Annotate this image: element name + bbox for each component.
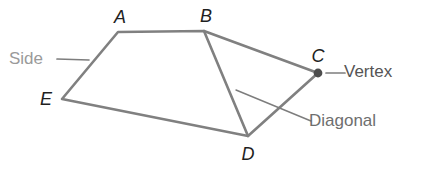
side-callout-label: Side <box>9 50 43 67</box>
vertex-dot-marker <box>314 69 323 78</box>
vertex-label-a: A <box>114 8 126 26</box>
vertex-callout-label: Vertex <box>344 63 392 80</box>
diagonal-bd-path <box>204 31 248 136</box>
diagonal-leader-line <box>236 90 311 121</box>
vertex-label-d: D <box>242 145 255 163</box>
side-leader-line <box>57 59 89 60</box>
vertex-label-b: B <box>200 7 212 25</box>
vertex-label-c: C <box>312 47 325 65</box>
geometry-diagram: A B C D E Side Vertex Diagonal <box>0 0 421 171</box>
pentagon-outline-path <box>62 31 318 136</box>
diagonal-callout-label: Diagonal <box>309 112 376 129</box>
vertex-label-e: E <box>40 90 52 108</box>
